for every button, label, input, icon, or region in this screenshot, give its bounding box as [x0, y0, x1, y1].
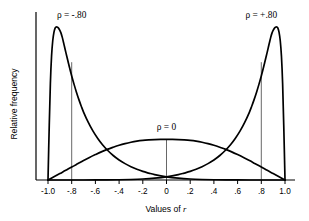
- x-axis-title: Values of r: [146, 204, 188, 214]
- x-axis-title-variable: r: [183, 204, 187, 214]
- x-tick-label: 0: [164, 187, 169, 196]
- x-tick-label: .8: [258, 187, 265, 196]
- x-axis-tick-labels-group: -1.0-.8-.6-.4-.20.2.4.6.81.0: [41, 187, 291, 196]
- y-axis-title: Relative frequency: [9, 68, 19, 140]
- x-tick-label: -.6: [91, 187, 101, 196]
- annotation-rho_zero: ρ = 0: [157, 122, 177, 132]
- x-tick-label: .4: [210, 187, 217, 196]
- x-tick-label: -.4: [114, 187, 124, 196]
- annotation-rho_pos80: ρ = +.80: [245, 10, 277, 20]
- x-tick-label: -1.0: [41, 187, 56, 196]
- x-tick-label: .2: [187, 187, 194, 196]
- curve-annotations-group: ρ = -.80ρ = 0ρ = +.80: [57, 10, 277, 132]
- x-tick-label: 1.0: [279, 187, 291, 196]
- x-tick-label: .6: [234, 187, 241, 196]
- annotation-rho_neg80: ρ = -.80: [57, 10, 87, 20]
- x-tick-label: -.8: [67, 187, 77, 196]
- x-tick-label: -.2: [138, 187, 148, 196]
- x-axis-title-prefix: Values of: [146, 204, 184, 214]
- chart-canvas: -1.0-.8-.6-.4-.20.2.4.6.81.0 ρ = -.80ρ =…: [0, 0, 309, 221]
- correlation-sampling-distribution-figure: -1.0-.8-.6-.4-.20.2.4.6.81.0 ρ = -.80ρ =…: [0, 0, 309, 221]
